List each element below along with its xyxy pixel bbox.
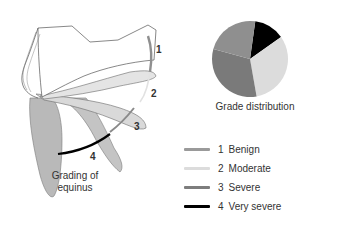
- grade-distribution-pie: [210, 19, 290, 99]
- foot-illustration: [0, 0, 180, 230]
- pie-caption: Grade distribution: [205, 101, 305, 112]
- legend-swatch-benign: [184, 148, 210, 151]
- legend-num: 3: [218, 182, 224, 193]
- legend-item-benign: 1 Benign: [184, 140, 324, 159]
- legend: 1 Benign 2 Moderate 3 Severe 4 Very seve…: [184, 140, 324, 216]
- equinus-grading-figure: 1 2 3 4 Grading of equinus Grade distrib…: [0, 0, 360, 230]
- caption-line-1: Grading of: [40, 170, 110, 182]
- legend-swatch-moderate: [184, 167, 210, 170]
- legend-label: Moderate: [229, 163, 271, 174]
- legend-num: 4: [218, 201, 224, 212]
- caption-line-2: equinus: [40, 182, 110, 194]
- legend-swatch-severe: [184, 186, 210, 189]
- grade-label-3: 3: [134, 121, 140, 132]
- legend-item-severe: 3 Severe: [184, 178, 324, 197]
- legend-item-very-severe: 4 Very severe: [184, 197, 324, 216]
- legend-label: Benign: [229, 144, 260, 155]
- grade-label-2: 2: [151, 88, 157, 99]
- legend-num: 2: [218, 163, 224, 174]
- legend-swatch-very-severe: [184, 205, 210, 208]
- legend-label: Severe: [229, 182, 261, 193]
- legend-label: Very severe: [229, 201, 282, 212]
- legend-item-moderate: 2 Moderate: [184, 159, 324, 178]
- pie-slices: [212, 21, 288, 97]
- legend-num: 1: [218, 144, 224, 155]
- grade-label-4: 4: [90, 151, 96, 162]
- left-caption: Grading of equinus: [40, 170, 110, 194]
- grade-label-1: 1: [156, 44, 162, 55]
